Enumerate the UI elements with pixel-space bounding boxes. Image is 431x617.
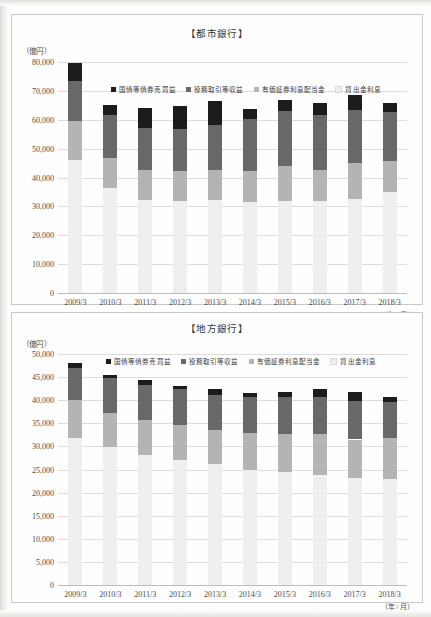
- bar-2012-3[interactable]: [173, 386, 187, 585]
- x-axis-tick-label: 2016/3: [302, 298, 337, 307]
- page-edge-shadow-left: [0, 0, 9, 617]
- bar-segment-loans: [383, 479, 397, 585]
- bar-2014-3[interactable]: [243, 393, 257, 585]
- bar-2009-3[interactable]: [68, 63, 82, 293]
- bar-2011-3[interactable]: [138, 380, 152, 585]
- bar-2018-3[interactable]: [383, 397, 397, 585]
- bar-2012-3[interactable]: [173, 106, 187, 293]
- legend-item-bond[interactable]: 国債等債券売買益: [111, 84, 176, 94]
- bar-2009-3[interactable]: [68, 363, 82, 585]
- bar-segment-bond: [138, 108, 152, 129]
- bar-2015-3[interactable]: [278, 100, 292, 293]
- legend-item-securities[interactable]: 有価証券利息配当金: [249, 356, 321, 366]
- x-axis-tick-label: 2017/3: [337, 590, 372, 599]
- bar-2014-3[interactable]: [243, 109, 257, 293]
- bar-2017-3[interactable]: [348, 95, 362, 293]
- page-edge-shadow-bottom: [0, 610, 431, 617]
- y-axis-tick-label: 35,000: [32, 419, 54, 428]
- legend-item-fees[interactable]: 役務取引等収益: [186, 84, 244, 94]
- bar-segment-loans: [313, 201, 327, 293]
- bar-segment-bond: [243, 109, 257, 119]
- legend-item-loans[interactable]: 貸出金利息: [335, 84, 381, 94]
- bar-2011-3[interactable]: [138, 108, 152, 293]
- bar-segment-securities: [103, 413, 117, 447]
- x-axis-tick-label: 2010/3: [93, 298, 128, 307]
- bar-2016-3[interactable]: [313, 389, 327, 585]
- bar-segment-securities: [208, 430, 222, 464]
- bar-segment-bond: [278, 392, 292, 397]
- bar-segment-bond: [173, 106, 187, 129]
- legend-swatch-fees: [186, 87, 191, 92]
- bar-segment-bond: [348, 392, 362, 401]
- y-axis-tick-label: 10,000: [32, 260, 54, 269]
- bar-segment-securities: [313, 434, 327, 475]
- bar-2013-3[interactable]: [208, 101, 222, 293]
- bar-segment-fees: [138, 385, 152, 420]
- bar-2010-3[interactable]: [103, 105, 117, 293]
- bar-2017-3[interactable]: [348, 392, 362, 585]
- bar-segment-loans: [68, 160, 82, 293]
- bar-segment-bond: [68, 363, 82, 369]
- x-axis-tick-label: 2012/3: [163, 590, 198, 599]
- bar-2018-3[interactable]: [383, 103, 397, 293]
- legend-swatch-loans: [335, 86, 342, 93]
- legend-swatch-securities: [249, 359, 254, 364]
- bar-segment-securities: [243, 171, 257, 202]
- chart-regional-banks: 【地方銀行】 （億円） 05,00010,00015,00020,00025,0…: [11, 312, 423, 603]
- bar-segment-securities: [138, 170, 152, 200]
- y-axis-tick-label: 15,000: [32, 511, 54, 520]
- y-axis-unit-city-banks: （億円）: [22, 45, 51, 56]
- bar-segment-loans: [138, 455, 152, 585]
- bar-segment-bond: [173, 386, 187, 389]
- y-axis-tick-label: 25,000: [32, 465, 54, 474]
- chart-legend-city-banks: 国債等債券売買益役務取引等収益有価証券利息配当金貸出金利息: [111, 84, 381, 94]
- bar-segment-bond: [243, 393, 257, 398]
- bar-segment-securities: [383, 161, 397, 192]
- bar-segment-fees: [103, 378, 117, 413]
- bar-segment-bond: [103, 375, 117, 378]
- y-axis-unit-regional-banks: （億円）: [22, 338, 51, 349]
- y-axis-tick-label: 20,000: [32, 231, 54, 240]
- bar-segment-fees: [68, 81, 82, 122]
- gridline: [58, 62, 407, 63]
- legend-item-bond[interactable]: 国債等債券売買益: [106, 356, 171, 366]
- bar-segment-fees: [243, 119, 257, 171]
- legend-item-fees[interactable]: 役務取引等収益: [181, 356, 239, 366]
- bar-segment-bond: [208, 389, 222, 395]
- bar-segment-fees: [208, 395, 222, 430]
- legend-label: 国債等債券売買益: [114, 356, 171, 366]
- bar-2016-3[interactable]: [313, 103, 327, 293]
- legend-item-securities[interactable]: 有価証券利息配当金: [254, 84, 326, 94]
- bar-segment-securities: [173, 171, 187, 202]
- plot-area-regional-banks: 05,00010,00015,00020,00025,00030,00035,0…: [58, 354, 407, 585]
- legend-item-loans[interactable]: 貸出金利息: [330, 356, 376, 366]
- bar-segment-loans: [208, 200, 222, 293]
- bar-segment-loans: [243, 202, 257, 293]
- bar-segment-loans: [103, 188, 117, 293]
- chart-city-banks: 【都市銀行】 （億円） 010,00020,00030,00040,00050,…: [11, 14, 423, 305]
- legend-label: 有価証券利息配当金: [257, 356, 321, 366]
- y-axis-tick-label: 40,000: [32, 396, 54, 405]
- bar-2015-3[interactable]: [278, 392, 292, 585]
- bar-segment-fees: [103, 115, 117, 158]
- bar-2010-3[interactable]: [103, 375, 117, 585]
- bar-segment-fees: [243, 397, 257, 432]
- plot-area-city-banks: 010,00020,00030,00040,00050,00060,00070,…: [58, 62, 407, 293]
- y-axis-tick-label: 50,000: [32, 144, 54, 153]
- bar-segment-fees: [208, 125, 222, 170]
- y-axis-tick-label: 70,000: [32, 86, 54, 95]
- x-axis-tick-label: 2018/3: [372, 298, 407, 307]
- chart-title-city-banks: 【都市銀行】: [11, 26, 423, 40]
- x-axis-tick-label: 2014/3: [233, 298, 268, 307]
- bar-segment-fees: [278, 111, 292, 166]
- bar-segment-fees: [173, 389, 187, 425]
- y-axis-tick-label: 20,000: [32, 488, 54, 497]
- bar-segment-bond: [68, 63, 82, 80]
- bar-segment-bond: [313, 389, 327, 397]
- bar-segment-loans: [208, 464, 222, 586]
- bar-2013-3[interactable]: [208, 389, 222, 585]
- page-edge-shadow-top: [0, 0, 431, 6]
- bar-segment-fees: [348, 110, 362, 163]
- x-axis-tick-label: 2012/3: [163, 298, 198, 307]
- scanned-page: 【都市銀行】 （億円） 010,00020,00030,00040,00050,…: [0, 0, 431, 617]
